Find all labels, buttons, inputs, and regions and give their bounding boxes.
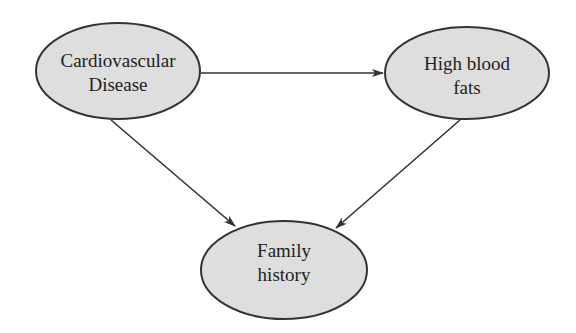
- node-label-line-2: fats: [453, 77, 480, 98]
- node-cardiovascular-disease: Cardiovascular Disease: [36, 23, 200, 119]
- node-label-line-2: history: [258, 264, 311, 285]
- node-label-line-1: Cardiovascular: [60, 50, 176, 71]
- node-high-blood-fats: High blood fats: [385, 27, 549, 119]
- edge-high-blood-fats-to-family-history: [336, 120, 460, 228]
- edge-cardiovascular-to-family-history: [111, 120, 235, 226]
- bayesian-network-diagram: Cardiovascular Disease High blood fats F…: [0, 0, 576, 333]
- node-label-line-1: High blood: [424, 53, 511, 74]
- node-ellipse: [36, 23, 200, 119]
- node-label-line-1: Family: [257, 240, 311, 261]
- node-label-line-2: Disease: [88, 74, 147, 95]
- node-family-history: Family history: [201, 221, 367, 319]
